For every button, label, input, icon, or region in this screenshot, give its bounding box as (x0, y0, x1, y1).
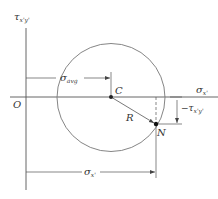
radius-label: R (125, 112, 134, 123)
sigma-avg-label: σavg (60, 72, 78, 85)
mohr-circle-diagram: τx'y' σx' O C N R σavg σx' −τx'y' (0, 0, 218, 199)
state-label: N (156, 127, 167, 138)
tau-dim-label: −τx'y' (181, 103, 204, 115)
center-point (109, 95, 113, 99)
sigma-x-dim-label: σx' (84, 166, 96, 178)
tau-axis-label: τx'y' (14, 11, 30, 24)
origin-label: O (13, 99, 21, 110)
center-label: C (115, 85, 123, 96)
sigma-axis-label: σx' (196, 84, 208, 96)
state-point (154, 122, 158, 126)
